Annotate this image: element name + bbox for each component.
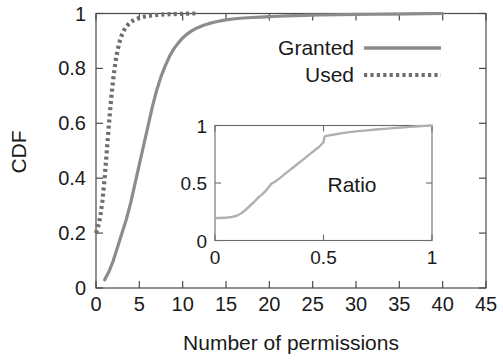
y-axis-tick-labels: 00.20.40.60.81 [58, 3, 86, 300]
x-tick-label: 30 [345, 293, 367, 315]
inset-x-tick-label: 0.5 [310, 247, 336, 268]
series-line-used [96, 14, 196, 234]
chart-canvas: 051015202530354045 00.20.40.60.81 Number… [0, 0, 503, 360]
inset-y-tick-label: 0.5 [181, 173, 207, 194]
x-tick-label: 0 [90, 293, 101, 315]
y-tick-label: 0 [75, 277, 86, 299]
inset-y-tick-label: 0 [196, 231, 207, 252]
inset-y-tick-label: 1 [196, 116, 207, 137]
x-axis-title: Number of permissions [183, 331, 399, 354]
x-tick-label: 35 [388, 293, 410, 315]
y-tick-label: 1 [75, 3, 86, 25]
x-tick-label: 45 [475, 293, 497, 315]
legend-label-granted: Granted [278, 36, 354, 59]
x-axis-tick-labels: 051015202530354045 [90, 293, 497, 315]
y-tick-label: 0.2 [58, 222, 86, 244]
x-tick-label: 10 [172, 293, 194, 315]
x-tick-label: 5 [134, 293, 145, 315]
inset-x-axis-tick-labels: 00.51 [210, 247, 438, 268]
y-tick-label: 0.8 [58, 57, 86, 79]
inset-x-tick-label: 1 [427, 247, 438, 268]
y-tick-label: 0.6 [58, 112, 86, 134]
y-axis-title: CDF [7, 130, 30, 173]
inset-x-tick-label: 0 [210, 247, 221, 268]
x-tick-label: 40 [432, 293, 454, 315]
cdf-permissions-figure: 051015202530354045 00.20.40.60.81 Number… [0, 0, 503, 360]
x-tick-label: 15 [215, 293, 237, 315]
inset-title: Ratio [327, 173, 376, 196]
x-tick-label: 20 [258, 293, 280, 315]
y-tick-label: 0.4 [58, 167, 86, 189]
inset-ratio-plot: 00.51 00.51 Ratio [181, 116, 438, 268]
inset-y-axis-tick-labels: 00.51 [181, 116, 207, 252]
x-tick-label: 25 [302, 293, 324, 315]
legend: Granted Used [278, 36, 441, 86]
legend-label-used: Used [305, 63, 354, 86]
